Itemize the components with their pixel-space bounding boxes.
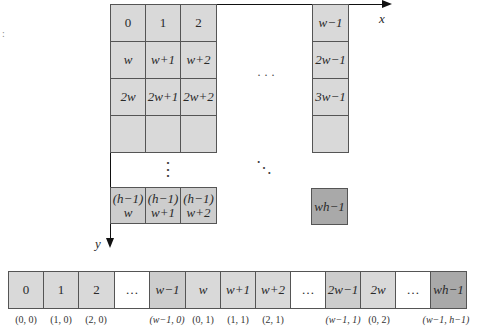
coord-label: (w−1, 1) — [325, 314, 360, 325]
strip-cell: 2w−1 — [325, 271, 361, 309]
coord-label: (2, 0) — [85, 314, 107, 325]
coord-label: (1, 1) — [227, 314, 249, 325]
grid-cell: 1 — [145, 4, 181, 42]
grid-cell — [312, 115, 349, 153]
grid-cell: 2w−1 — [312, 41, 349, 79]
x-axis-label: x — [379, 11, 385, 27]
grid-cell: w — [110, 41, 146, 79]
grid-cell: 3w−1 — [312, 78, 349, 116]
coord-label: (2, 1) — [262, 314, 284, 325]
grid-cell — [180, 115, 217, 153]
grid-cell — [145, 115, 181, 153]
strip-cell: 1 — [43, 271, 79, 309]
strip-cell: … — [395, 271, 431, 309]
grid-cell: w+2 — [180, 41, 217, 79]
grid-cell-last: wh−1 — [311, 188, 348, 225]
coord-label: (1, 0) — [50, 314, 72, 325]
coord-label: (w−1, 0) — [149, 314, 184, 325]
grid-cell: 2w — [110, 78, 146, 116]
x-axis-arrow-icon — [382, 0, 392, 8]
coord-label: (0, 2) — [368, 314, 390, 325]
grid-cell: 2w+1 — [145, 78, 181, 116]
strip-cell: w+1 — [220, 271, 256, 309]
grid-cell: w−1 — [312, 4, 349, 42]
ellipsis-vertical: ⋮ — [159, 158, 177, 180]
grid-cell: 0 — [110, 4, 146, 42]
strip-cell: w−1 — [149, 271, 186, 309]
y-axis-label: y — [95, 236, 101, 252]
coord-label: (0, 1) — [192, 314, 214, 325]
ellipsis-diagonal: ⋱ — [256, 158, 272, 177]
grid-cell: (h−1)w+1 — [145, 187, 181, 224]
strip-cell-last: wh−1 — [430, 271, 467, 309]
strip-cell: … — [290, 271, 326, 309]
grid-cell — [110, 115, 146, 153]
y-axis-arrow-icon — [106, 238, 114, 248]
stray-mark: : — [2, 28, 5, 39]
strip-cell: 0 — [8, 271, 44, 309]
strip-cell: 2 — [78, 271, 115, 309]
grid-cell: w+1 — [145, 41, 181, 79]
grid-cell: 2w+2 — [180, 78, 217, 116]
grid-cell: (h−1)w — [110, 187, 146, 224]
strip-cell: w — [185, 271, 221, 309]
coord-label: (0, 0) — [15, 314, 37, 325]
coord-label: (w−1, h−1) — [423, 314, 470, 325]
strip-cell: w+2 — [255, 271, 291, 309]
strip-cell: … — [114, 271, 150, 309]
ellipsis-horizontal: · · · — [257, 68, 275, 83]
grid-cell: 2 — [180, 4, 217, 42]
strip-cell: 2w — [360, 271, 396, 309]
grid-cell: (h−1)w+2 — [180, 187, 217, 224]
